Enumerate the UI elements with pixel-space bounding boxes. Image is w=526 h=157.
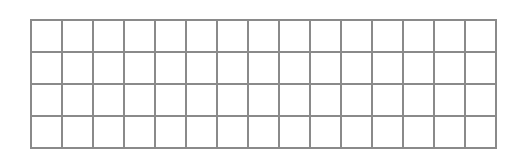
grid-cell (249, 85, 280, 117)
grid-cell (156, 117, 187, 149)
grid-cell (32, 117, 63, 149)
grid-cell (404, 21, 435, 53)
grid-cell (435, 85, 466, 117)
grid-cell (156, 85, 187, 117)
grid-cell (466, 85, 497, 117)
grid-cell (125, 85, 156, 117)
grid-cell (218, 85, 249, 117)
grid-cell (311, 85, 342, 117)
grid-cell (466, 53, 497, 85)
grid-cell (187, 85, 218, 117)
grid-cell (466, 21, 497, 53)
grid-cell (125, 21, 156, 53)
grid-cell (156, 21, 187, 53)
grid-cell (342, 85, 373, 117)
grid-cell (94, 53, 125, 85)
grid-cell (311, 53, 342, 85)
grid-cell (94, 21, 125, 53)
grid-cell (156, 53, 187, 85)
grid-cell (249, 21, 280, 53)
grid-cell (342, 53, 373, 85)
grid-cell (187, 117, 218, 149)
grid-cell (32, 85, 63, 117)
grid-cell (311, 117, 342, 149)
grid-cell (63, 85, 94, 117)
grid-cell (280, 21, 311, 53)
grid-cell (32, 21, 63, 53)
grid-cell (94, 117, 125, 149)
grid-cell (187, 21, 218, 53)
grid-cell (187, 53, 218, 85)
grid-cell (404, 85, 435, 117)
empty-grid (30, 19, 497, 149)
grid-cell (32, 53, 63, 85)
grid-cell (342, 117, 373, 149)
grid-cell (249, 53, 280, 85)
grid-cell (63, 53, 94, 85)
grid-cell (280, 85, 311, 117)
grid-cell (404, 117, 435, 149)
grid-cell (280, 53, 311, 85)
grid-cell (404, 53, 435, 85)
grid-cell (373, 85, 404, 117)
grid-cell (249, 117, 280, 149)
grid-cell (94, 85, 125, 117)
grid-cell (373, 53, 404, 85)
grid-cell (218, 21, 249, 53)
grid-cell (218, 53, 249, 85)
grid-cell (63, 117, 94, 149)
grid-cell (466, 117, 497, 149)
grid-cell (125, 53, 156, 85)
grid-cell (311, 21, 342, 53)
grid-cell (125, 117, 156, 149)
grid-cell (63, 21, 94, 53)
grid-cell (373, 21, 404, 53)
grid-cell (435, 117, 466, 149)
grid-cell (280, 117, 311, 149)
grid-cell (373, 117, 404, 149)
grid-cell (435, 53, 466, 85)
grid-cell (435, 21, 466, 53)
grid-cell (342, 21, 373, 53)
canvas (0, 0, 526, 157)
grid-cell (218, 117, 249, 149)
